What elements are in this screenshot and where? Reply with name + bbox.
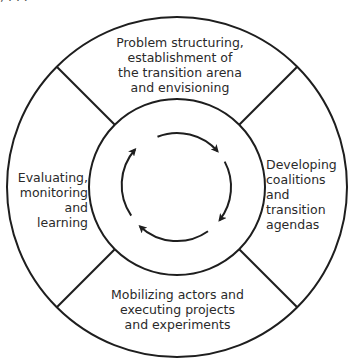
inner-ring-circle: [89, 99, 265, 275]
segment-label-mobilizing-actors: Mobilizing actors and executing projects…: [85, 287, 270, 332]
segment-label-problem-structuring: Problem structuring, establishment of th…: [95, 35, 265, 95]
cycle-arrow-right: [220, 162, 231, 221]
transition-management-cycle-diagram: , . . . Problem structuring, establishme…: [0, 0, 349, 361]
cycle-arrow-bottom: [140, 226, 208, 241]
segment-label-evaluating-monitoring: Evaluating, monitoring and learning: [14, 170, 88, 230]
cycle-arrow-top: [158, 133, 218, 151]
cropped-caption-text: , . . .: [0, 0, 28, 4]
segment-label-developing-coalitions: Developing coalitions and transition age…: [266, 157, 346, 232]
cycle-arrow-left: [122, 150, 135, 216]
